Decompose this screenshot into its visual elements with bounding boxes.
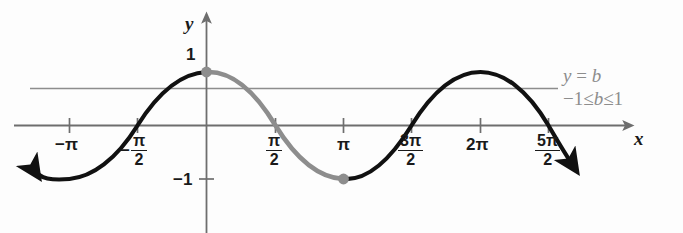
x-tick-label-2pi: 2π <box>466 136 488 153</box>
x-axis-label: x <box>634 129 644 148</box>
fraction-denominator: 2 <box>135 151 144 168</box>
relation-leq-1: ≤ <box>583 88 593 109</box>
x-tick-label-pi: π <box>337 136 350 153</box>
figure-canvas: y x 1 −1 −π − π 2 π 2 π 3π 2 2π 5π 2 <box>0 0 683 233</box>
relation-leq-2: ≤ <box>603 88 613 109</box>
cosine-graph-svg <box>0 0 683 233</box>
line-equation-label: y = b <box>563 66 601 85</box>
minus-sign: − <box>120 142 130 159</box>
x-tick-label-pi-over-2: π 2 <box>266 134 282 169</box>
domain-lower-bound: −1 <box>563 88 583 109</box>
domain-upper-bound: 1 <box>614 88 624 109</box>
fraction-denominator: 2 <box>406 151 415 168</box>
point-min-pi-neg1 <box>338 174 349 185</box>
fraction-denominator: 2 <box>270 151 279 168</box>
fraction-denominator: 2 <box>543 151 552 168</box>
domain-variable: b <box>594 88 604 109</box>
line-equation-equals: = <box>576 65 587 86</box>
fraction-numerator: 5π <box>535 133 560 151</box>
x-tick-label-3pi-over-2: 3π 2 <box>398 134 423 169</box>
y-tick-label-1: 1 <box>186 46 195 63</box>
domain-restriction-label: −1≤b≤1 <box>563 89 623 108</box>
y-tick-label-neg1: −1 <box>173 171 192 188</box>
fraction-numerator: 3π <box>398 133 423 151</box>
fraction-numerator: π <box>131 133 147 151</box>
x-tick-label-neg-pi: −π <box>55 136 78 153</box>
fraction-numerator: π <box>266 133 282 151</box>
line-equation-lhs: y <box>563 65 571 86</box>
x-tick-label-neg-pi-over-2: − π 2 <box>120 134 147 169</box>
line-equation-rhs: b <box>592 65 602 86</box>
x-tick-label-5pi-over-2: 5π 2 <box>535 134 560 169</box>
y-axis-label: y <box>185 14 193 33</box>
point-max-0-1 <box>201 67 212 78</box>
